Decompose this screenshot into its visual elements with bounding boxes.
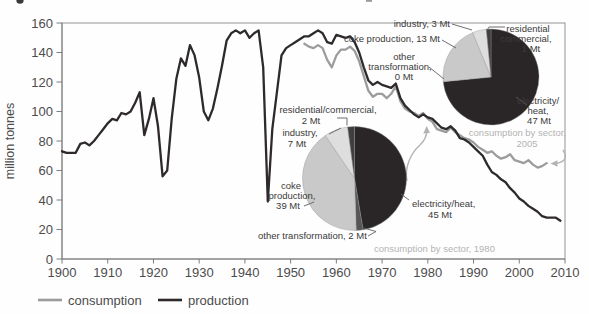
legend-production-label: production (188, 293, 249, 308)
x-tick-label: 1940 (230, 265, 259, 280)
pie1980-caption: consumption by sector, 1980 (374, 243, 495, 254)
y-tick-label: 80 (39, 134, 53, 149)
pie1980-label-res-1: residential/commercial, (279, 104, 376, 115)
x-tick-label: 1930 (185, 265, 214, 280)
pie1980-label-res-2: 2 Mt (302, 115, 321, 126)
y-tick-label: 100 (31, 104, 53, 119)
x-tick-label: 2000 (505, 265, 534, 280)
x-tick-label: 1960 (322, 265, 351, 280)
legend-consumption-label: consumption (68, 293, 142, 308)
pie2005-caption-line2: 2005 (516, 138, 537, 149)
leader-2005-coke (442, 40, 456, 48)
pie1980-label-elec-2: 45 Mt (428, 209, 452, 220)
x-tick-label: 1970 (368, 265, 397, 280)
arrow-2005-arrowhead (551, 160, 558, 167)
x-tick-label: 1990 (459, 265, 488, 280)
leader-1980-residential (337, 118, 347, 126)
y-tick-label: 20 (39, 222, 53, 237)
chart-figure: 020406080100120140160 190019101920193019… (0, 0, 589, 314)
pie1980-label-elec-1: electricity/heat, (412, 198, 475, 209)
pie2005-label-elec-2: heat, (527, 105, 548, 116)
y-axis-title: million tonnes (3, 103, 17, 179)
y-tick-label: 160 (31, 16, 53, 31)
pie2005-label-industry: industry, 3 Mt (394, 18, 451, 29)
pie2005-label-other-3: 0 Mt (395, 71, 414, 82)
x-tick-label: 1910 (93, 265, 122, 280)
x-tick-label: 1980 (413, 265, 442, 280)
x-tick-label: 1950 (276, 265, 305, 280)
y-tick-label: 120 (31, 75, 53, 90)
y-tick-label: 140 (31, 45, 53, 60)
x-tick-label: 2010 (551, 265, 580, 280)
y-axis-ticks: 020406080100120140160 (31, 16, 62, 267)
x-axis-ticks: 1900191019201930194019501960197019801990… (48, 259, 580, 280)
coal-chart-svg: 020406080100120140160 190019101920193019… (0, 0, 589, 314)
pie2005-caption-line1: consumption by sector, (469, 127, 566, 138)
pie1980-label-coke-3: 39 Mt (276, 200, 300, 211)
cropped-title-artifact (16, 0, 23, 4)
pie1980-label-ind-2: 7 Mt (288, 138, 307, 149)
legend: consumption production (38, 293, 249, 308)
pie2005-label-coke: coke production, 13 Mt (344, 33, 440, 44)
arrow-1980-pie-to-line (406, 131, 426, 181)
x-tick-label: 1900 (48, 265, 77, 280)
arrow-1980-arrowhead (423, 126, 430, 134)
x-tick-label: 1920 (139, 265, 168, 280)
pie1980-label-other: other transformation, 2 Mt (258, 230, 367, 241)
pie2005-label-res-3: 1 Mt (522, 43, 541, 54)
y-tick-label: 60 (39, 163, 53, 178)
pie1980-label-ind-1: industry, (282, 127, 317, 138)
y-tick-label: 40 (39, 193, 53, 208)
cropped-title-artifact-2 (366, 0, 372, 2)
leader-2005-industry (452, 24, 472, 30)
pie-0-slice-electricity-heat (355, 127, 407, 230)
pie2005-label-elec-3: 47 Mt (527, 115, 551, 126)
